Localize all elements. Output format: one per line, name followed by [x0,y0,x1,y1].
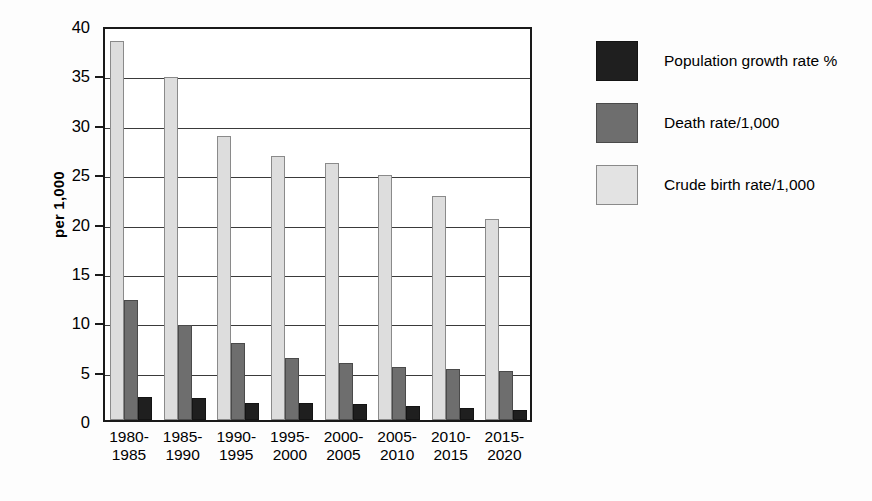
bar-crude [378,175,392,420]
y-axis-tick-label: 10 [52,315,90,332]
y-axis-tick-mark [95,373,103,375]
bar-crude [217,136,231,420]
y-axis-tick-label: 15 [52,266,90,283]
y-axis-tick-mark [95,225,103,227]
bar-growth [513,410,527,420]
y-axis-tick-mark [95,175,103,177]
y-axis-tick-mark [95,323,103,325]
bar-death [124,300,138,420]
chart-figure: per 1,000 0510152025303540 1980-19851985… [0,0,872,501]
bar-crude [110,41,124,420]
y-axis-tick-label: 20 [52,217,90,234]
bar-growth [406,406,420,420]
legend-label: Death rate/1,000 [664,114,779,132]
bar-crude [485,219,499,420]
bar-growth [460,408,474,420]
legend-swatch-death [596,103,638,143]
bar-death [285,358,299,420]
bar-death [231,343,245,420]
bar-death [178,325,192,420]
x-axis-tick-label-line: 2020 [471,446,537,464]
y-axis-tick-label: 0 [52,414,90,431]
y-axis-tick-label: 25 [52,167,90,184]
y-axis-tick-mark [95,126,103,128]
legend-swatch-crude [596,165,638,205]
bar-growth [138,397,152,420]
x-axis-tick-label-line: 2015- [471,428,537,446]
bar-growth [299,403,313,420]
legend-item-death: Death rate/1,000 [596,92,866,154]
bar-death [339,363,353,420]
bar-growth [192,398,206,420]
legend-item-crude: Crude birth rate/1,000 [596,154,866,216]
chart-legend: Population growth rate %Death rate/1,000… [596,30,866,216]
legend-label: Population growth rate % [664,52,837,70]
y-axis-tick-mark [95,274,103,276]
y-axis-title: per 1,000 [50,125,67,285]
legend-label: Crude birth rate/1,000 [664,176,815,194]
y-axis-tick-label: 35 [52,68,90,85]
bar-death [392,367,406,420]
bar-crude [432,196,446,420]
bar-crude [325,163,339,420]
bar-death [446,369,460,420]
bar-crude [164,77,178,420]
bar-growth [353,404,367,420]
legend-swatch-growth [596,41,638,81]
bar-crude [271,156,285,420]
plot-area [103,27,532,422]
bar-death [499,371,513,420]
y-axis-tick-label: 30 [52,118,90,135]
y-axis-tick-label: 40 [52,19,90,36]
x-axis-tick-label: 2015-2020 [471,428,537,465]
y-axis-tick-mark [95,76,103,78]
y-axis-tick-label: 5 [52,365,90,382]
bar-growth [245,403,259,420]
legend-item-growth: Population growth rate % [596,30,866,92]
